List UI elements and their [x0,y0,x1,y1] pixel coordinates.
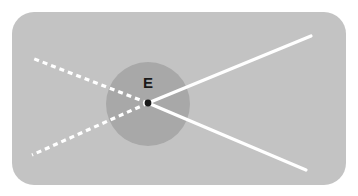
ray-diagram-svg: E [0,0,358,196]
vertex-label-e: E [143,74,153,91]
figure-root: E [0,0,358,196]
convergence-point-dot [145,100,152,107]
